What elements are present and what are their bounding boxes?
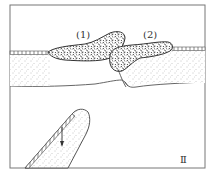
- label-block-2: (2): [143, 29, 157, 40]
- panel-label: Ⅱ: [180, 154, 187, 165]
- crust-strip-right: [172, 47, 205, 51]
- crust-strip-left: [10, 51, 48, 55]
- label-block-1: (1): [76, 29, 90, 40]
- geologic-diagram: (1) (2) Ⅱ: [0, 0, 212, 175]
